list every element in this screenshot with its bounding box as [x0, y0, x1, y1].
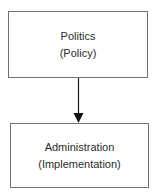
node-administration-title: Administration: [45, 139, 115, 156]
node-politics: Politics (Policy): [8, 11, 148, 78]
node-administration-subtitle: (Implementation): [38, 156, 121, 173]
node-politics-subtitle: (Policy): [60, 45, 97, 62]
node-administration: Administration (Implementation): [10, 123, 149, 188]
arrowhead-icon: [74, 113, 84, 123]
node-politics-title: Politics: [61, 28, 96, 45]
